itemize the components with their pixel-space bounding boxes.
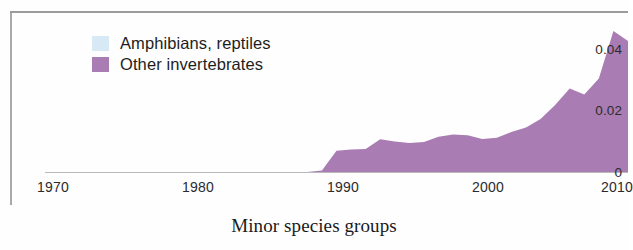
- chart-zero-baseline: [45, 172, 628, 173]
- legend-swatch-other-invertebrates: [92, 57, 109, 72]
- x-axis-tick-label-2000: 2000: [472, 180, 504, 194]
- figure-caption: Minor species groups: [0, 216, 628, 235]
- y-axis-tick-label-0: 0: [578, 166, 628, 180]
- legend-swatch-amphibians-reptiles: [92, 36, 109, 51]
- y-axis-tick-label-002: 0.02: [578, 104, 628, 118]
- x-axis-tick-label-1970: 1970: [37, 180, 69, 194]
- y-axis-tick-label-004: 0.04: [578, 43, 628, 57]
- legend-label-other-invertebrates: Other invertebrates: [120, 56, 263, 73]
- figure-frame-top-rule: [10, 11, 628, 13]
- chart-legend: Amphibians, reptiles Other invertebrates: [92, 33, 271, 75]
- x-axis-tick-label-1980: 1980: [182, 180, 214, 194]
- x-axis-tick-label-1990: 1990: [327, 180, 359, 194]
- figure-frame-left-rule: [10, 11, 12, 205]
- legend-item-other-invertebrates: Other invertebrates: [92, 54, 271, 75]
- legend-label-amphibians-reptiles: Amphibians, reptiles: [120, 35, 271, 52]
- legend-item-amphibians-reptiles: Amphibians, reptiles: [92, 33, 271, 54]
- x-axis-tick-label-2010: 2010: [601, 180, 633, 194]
